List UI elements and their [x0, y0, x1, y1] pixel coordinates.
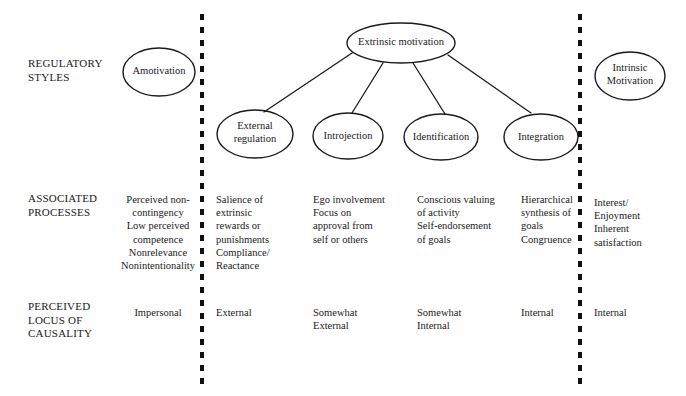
perceived-locus-introjection: Somewhat External [313, 306, 409, 332]
connector-extrinsic-to-integration [448, 55, 531, 113]
connector-extrinsic-to-introjection [352, 63, 383, 113]
perceived-locus-amotivation: Impersonal [113, 306, 203, 319]
node-label-intrinsic-motivation[interactable]: Intrinsic Motivation [592, 62, 668, 87]
associated-processes-external-regulation: Salience of extrinsic rewards or punishm… [216, 193, 312, 272]
connector-extrinsic-to-identification [413, 63, 445, 114]
node-label-integration[interactable]: Integration [501, 131, 581, 144]
associated-processes-identification: Conscious valuing of activity Self-endor… [417, 193, 527, 246]
associated-processes-introjection: Ego involvement Focus on approval from s… [313, 193, 413, 246]
perceived-locus-external-regulation: External [216, 306, 310, 319]
associated-processes-intrinsic-motivation: Interest/ Enjoyment Inherent satisfactio… [594, 196, 680, 249]
perceived-locus-integration: Internal [521, 306, 601, 319]
node-label-external-regulation[interactable]: External regulation [215, 120, 295, 145]
perceived-locus-intrinsic-motivation: Internal [594, 306, 674, 319]
associated-processes-integration: Hierarchical synthesis of goals Congruen… [521, 193, 601, 246]
connector-extrinsic-to-external-regulation [264, 53, 352, 112]
node-label-amotivation[interactable]: Amotivation [119, 65, 199, 78]
diagram-canvas: REGULATORY STYLES ASSOCIATED PROCESSES P… [0, 0, 686, 396]
row-label-regulatory-styles: REGULATORY STYLES [28, 57, 128, 84]
node-label-extrinsic-motivation[interactable]: Extrinsic motivation [341, 36, 461, 49]
associated-processes-amotivation: Perceived non- contingency Low perceived… [112, 193, 204, 272]
node-label-identification[interactable]: Identification [399, 131, 483, 144]
node-label-introjection[interactable]: Introjection [308, 130, 388, 143]
perceived-locus-identification: Somewhat Internal [417, 306, 513, 332]
